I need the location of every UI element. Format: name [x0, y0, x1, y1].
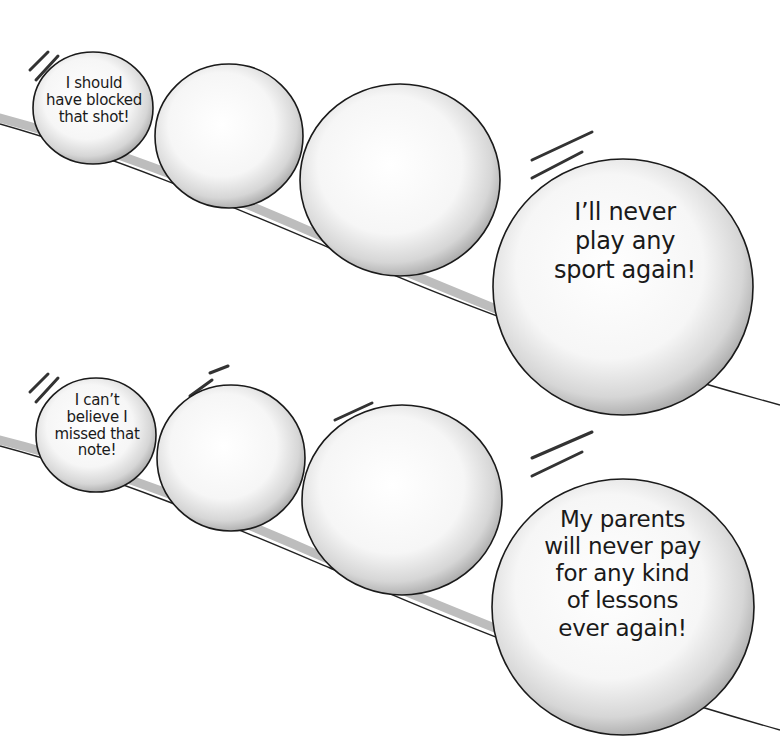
caption-line: of lessons [515, 587, 730, 614]
caption-line: My parents [515, 506, 730, 533]
ball-4-caption-bottom: My parents will never pay for any kind o… [515, 506, 730, 642]
caption-line: note! [38, 442, 156, 459]
caption-line: have blocked [36, 92, 152, 109]
caption-line: I should [36, 75, 152, 92]
caption-line: I can’t [38, 392, 156, 409]
ball-2 [155, 64, 303, 208]
ball-3 [300, 84, 500, 276]
ball-1-caption-bottom: I can’t believe I missed that note! [38, 392, 156, 459]
caption-line: for any kind [515, 560, 730, 587]
caption-line: believe I [38, 409, 156, 426]
caption-line: will never pay [515, 533, 730, 560]
ball-4-caption-top: I’ll never play any sport again! [520, 198, 730, 284]
caption-line: play any [520, 227, 730, 256]
caption-line: sport again! [520, 256, 730, 285]
caption-line: ever again! [515, 615, 730, 642]
caption-line: I’ll never [520, 198, 730, 227]
ball-1-caption-top: I should have blocked that shot! [36, 75, 152, 125]
ball-3 [302, 405, 502, 595]
ball-2 [157, 385, 305, 531]
caption-line: missed that [38, 426, 156, 443]
caption-line: that shot! [36, 109, 152, 126]
